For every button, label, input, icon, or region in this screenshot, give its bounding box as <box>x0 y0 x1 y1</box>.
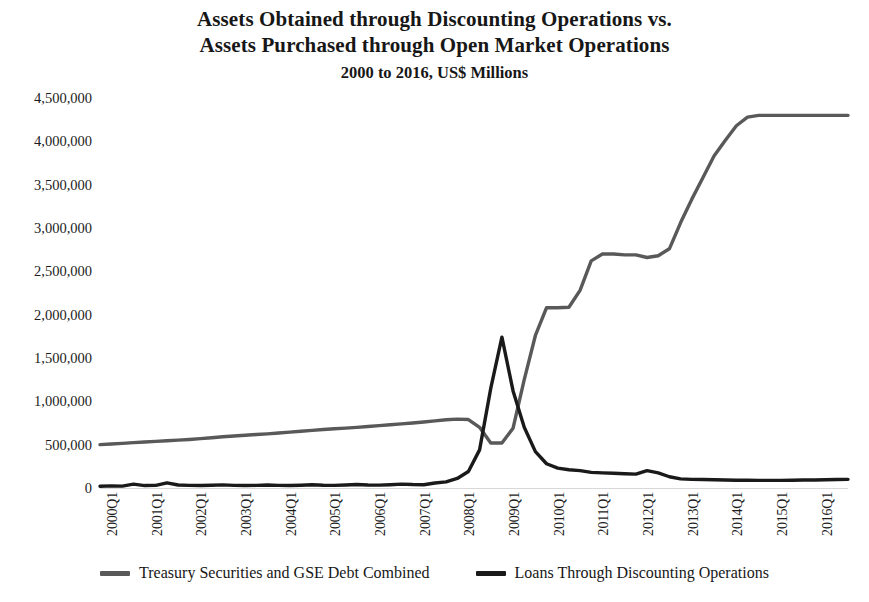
x-axis-tick-label: 2007Q1 <box>419 492 433 536</box>
y-axis-tick-label: 500,000 <box>0 437 92 453</box>
x-axis-tick-label: 2014Q1 <box>731 492 745 536</box>
x-axis-tick-label: 2000Q1 <box>106 492 120 536</box>
legend-swatch-treasury <box>100 571 130 576</box>
chart-legend: Treasury Securities and GSE Debt Combine… <box>0 563 869 583</box>
x-axis-tick-label: 2013Q1 <box>687 492 701 536</box>
chart-title-line-2: Assets Purchased through Open Market Ope… <box>0 32 869 58</box>
chart-title-block: Assets Obtained through Discounting Oper… <box>0 6 869 85</box>
series-line-treasury <box>100 115 848 444</box>
x-axis-tick-label: 2016Q1 <box>821 492 835 536</box>
x-axis-tick-label: 2015Q1 <box>776 492 790 536</box>
x-axis-tick-label: 2003Q1 <box>240 492 254 536</box>
x-axis-tick-label: 2008Q1 <box>463 492 477 536</box>
y-axis-tick-label: 2,000,000 <box>0 307 92 323</box>
chart-figure: Assets Obtained through Discounting Oper… <box>0 0 869 602</box>
chart-title-line-1: Assets Obtained through Discounting Oper… <box>0 6 869 32</box>
y-axis-tick-label: 4,000,000 <box>0 133 92 149</box>
x-axis-tick-label: 2012Q1 <box>642 492 656 536</box>
y-axis-tick-label: 0 <box>0 480 92 496</box>
x-axis-tick-label: 2004Q1 <box>285 492 299 536</box>
legend-item[interactable]: Loans Through Discounting Operations <box>476 563 769 583</box>
y-axis-tick-label: 3,000,000 <box>0 220 92 236</box>
x-axis-tick-label: 2006Q1 <box>374 492 388 536</box>
x-axis-tick-label: 2005Q1 <box>329 492 343 536</box>
x-axis-tick-label: 2001Q1 <box>151 492 165 536</box>
x-axis-tick-label: 2010Q1 <box>553 492 567 536</box>
legend-item-label: Treasury Securities and GSE Debt Combine… <box>139 563 429 583</box>
chart-subtitle: 2000 to 2016, US$ Millions <box>0 61 869 85</box>
legend-item-label: Loans Through Discounting Operations <box>515 563 769 583</box>
x-axis-tick-label: 2009Q1 <box>508 492 522 536</box>
series-line-loans <box>100 337 848 486</box>
y-axis-tick-label: 4,500,000 <box>0 90 92 106</box>
y-axis-labels: 4,500,0004,000,0003,500,0003,000,0002,50… <box>0 98 92 488</box>
y-axis-tick-label: 1,500,000 <box>0 350 92 366</box>
x-axis-tick-label: 2002Q1 <box>195 492 209 536</box>
y-axis-tick-label: 3,500,000 <box>0 177 92 193</box>
y-axis-tick-label: 1,000,000 <box>0 393 92 409</box>
legend-item[interactable]: Treasury Securities and GSE Debt Combine… <box>100 563 429 583</box>
y-axis-tick-label: 2,500,000 <box>0 263 92 279</box>
legend-swatch-loans <box>476 571 506 576</box>
plot-area <box>100 98 848 488</box>
x-axis-tick-label: 2011Q1 <box>597 492 611 535</box>
x-axis-baseline <box>100 488 848 489</box>
x-axis-labels: 2000Q12001Q12002Q12003Q12004Q12005Q12006… <box>100 492 848 554</box>
series-lines-svg <box>100 98 848 488</box>
